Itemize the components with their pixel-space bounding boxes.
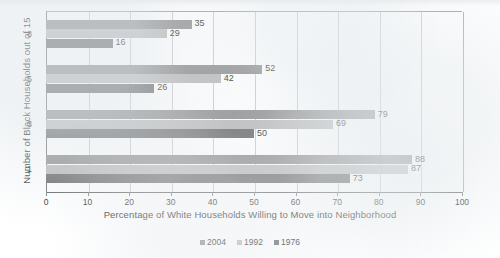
bar-2004-3 [46,110,375,119]
x-axis-tick [88,192,89,196]
x-axis-tick-label: 0 [44,197,49,207]
x-axis-tick [212,192,213,196]
bar-value-label: 42 [224,73,234,83]
x-axis-tick-label: 10 [83,197,92,207]
y-axis-category-8: 8 [12,29,32,39]
x-axis-tick-label: 60 [291,197,300,207]
bar-value-label: 73 [353,173,363,183]
x-axis-tick-label: 70 [332,197,341,207]
x-axis-tick [379,192,380,196]
y-axis-category-1: 1 [12,164,32,174]
bar-1976-1 [46,174,350,183]
legend-item-1976[interactable]: 1976 [274,237,300,247]
bar-1976-3 [46,129,254,138]
x-axis-tick-label: 40 [208,197,217,207]
x-axis-tick [420,192,421,196]
x-axis-title: Percentage of White Households Willing t… [0,209,500,220]
x-axis-tick [129,192,130,196]
legend-item-1992[interactable]: 1992 [237,237,263,247]
y-axis-category-5: 5 [12,74,32,84]
x-axis-tick-label: 100 [455,197,469,207]
bar-value-label: 16 [116,37,126,47]
legend-label: 2004 [207,237,226,247]
chart-legend: 200419921976 [0,237,500,247]
bar-value-label: 69 [336,118,346,128]
gridline [421,12,422,192]
x-axis-tick [46,192,47,196]
bar-value-label: 88 [415,154,425,164]
bar-2004-1 [46,155,412,164]
x-axis-tick [296,192,297,196]
x-axis-tick-label: 80 [374,197,383,207]
x-axis-tick-label: 30 [166,197,175,207]
y-axis-category-3: 3 [12,119,32,129]
bar-1976-8 [46,39,113,48]
x-axis-tick [254,192,255,196]
bar-1992-3 [46,120,333,129]
legend-label: 1976 [281,237,300,247]
bar-value-label: 87 [411,163,421,173]
bar-value-label: 52 [265,63,275,73]
bar-1992-8 [46,29,167,38]
bar-1976-5 [46,84,154,93]
x-axis-tick-label: 20 [124,197,133,207]
bar-value-label: 29 [170,28,180,38]
bar-value-label: 50 [257,128,267,138]
legend-swatch-icon [237,240,242,245]
x-axis-tick-label: 50 [249,197,258,207]
legend-swatch-icon [200,240,205,245]
x-axis-tick [171,192,172,196]
x-axis-tick [462,192,463,196]
bar-value-label: 35 [195,18,205,28]
bar-chart: Number of Black Households out of 15 010… [0,0,500,258]
gridline [463,12,464,192]
x-axis-tick-label: 90 [416,197,425,207]
x-axis-tick [337,192,338,196]
legend-label: 1992 [244,237,263,247]
bar-value-label: 26 [157,82,167,92]
legend-swatch-icon [274,240,279,245]
legend-item-2004[interactable]: 2004 [200,237,226,247]
bar-1992-5 [46,74,221,83]
bar-value-label: 79 [378,109,388,119]
